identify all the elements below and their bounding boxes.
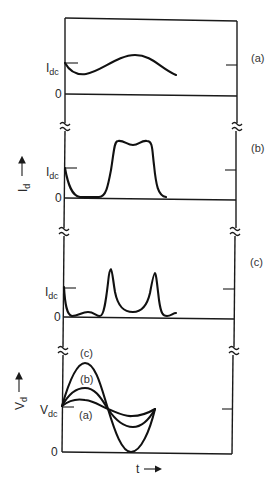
break-icon — [230, 228, 240, 236]
curve-label-a: (a) — [79, 409, 92, 421]
break-icon — [229, 347, 239, 355]
break-icon — [232, 123, 242, 131]
zero-label: 0 — [55, 191, 62, 205]
panel-label-b: (b) — [251, 142, 264, 154]
zero-line — [65, 94, 237, 96]
zero-label: 0 — [51, 445, 58, 459]
idc-label: Idc — [46, 61, 59, 77]
panel-a: Idc 0 (a) — [46, 52, 264, 101]
curve-label-b: (b) — [80, 373, 93, 385]
panel-voltage: Vdc 0 (c) (b) (a) — [40, 347, 232, 459]
current-axis-label: Id — [16, 158, 32, 192]
current-waveform-b — [65, 141, 166, 197]
axis-break-icons — [58, 123, 242, 355]
break-icon — [59, 228, 69, 236]
break-icon — [60, 123, 70, 131]
zero-label: 0 — [55, 87, 62, 101]
zero-label: 0 — [54, 310, 61, 324]
diode-waveform-diagram: Idc 0 (a) Idc 0 (b) Idc 0 (c) Vdc 0 (c) — [0, 0, 275, 488]
time-axis-label: t — [136, 462, 160, 476]
voltage-waveform-c — [62, 363, 155, 452]
panel-label-a: (a) — [251, 52, 264, 64]
vd-label: Vd — [13, 397, 29, 410]
voltage-axis-label: Vd — [13, 374, 29, 410]
current-waveform-c — [64, 269, 176, 316]
panel-c: Idc 0 (c) — [45, 256, 263, 324]
idc-label: Idc — [46, 165, 59, 181]
break-icon — [58, 347, 68, 355]
panel-label-c: (c) — [250, 256, 263, 268]
t-label: t — [136, 462, 140, 476]
curve-label-c: (c) — [80, 347, 93, 359]
zero-line — [64, 317, 234, 319]
current-waveform-a — [65, 55, 176, 75]
id-label: Id — [16, 184, 32, 192]
idc-label: Idc — [45, 285, 58, 301]
panel-b: Idc 0 (b) — [46, 141, 264, 205]
vdc-label: Vdc — [40, 403, 58, 419]
zero-line — [65, 198, 236, 200]
